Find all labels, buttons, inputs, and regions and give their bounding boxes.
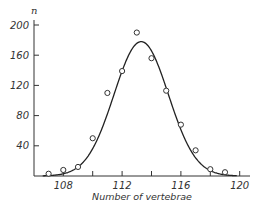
data-point: [149, 56, 154, 61]
data-point: [61, 167, 66, 172]
chart: 4080120160200 108112116120 n Number of v…: [0, 0, 261, 213]
y-tick-label: 120: [10, 80, 29, 91]
fitted-curve: [43, 42, 237, 176]
data-point: [164, 88, 169, 93]
data-point: [46, 171, 51, 176]
y-tick-label: 160: [10, 50, 29, 61]
data-point: [134, 30, 139, 35]
x-tick-label: 112: [113, 180, 132, 191]
data-point: [120, 68, 125, 73]
x-axis-label: Number of vertebrae: [92, 191, 192, 202]
y-tick-label: 200: [10, 20, 29, 31]
x-tick-label: 120: [230, 180, 249, 191]
data-point: [75, 164, 80, 169]
y-ticks: 4080120160200: [10, 20, 39, 152]
data-point: [90, 136, 95, 141]
y-tick-label: 40: [16, 140, 29, 151]
x-tick-label: 116: [171, 180, 190, 191]
data-point: [208, 167, 213, 172]
data-point: [193, 148, 198, 153]
data-points: [46, 30, 228, 176]
data-point: [105, 90, 110, 95]
x-tick-label: 108: [54, 180, 73, 191]
data-point: [178, 122, 183, 127]
y-tick-label: 80: [16, 110, 29, 121]
y-axis-label: n: [31, 5, 37, 16]
axes: [34, 20, 250, 176]
data-point: [222, 170, 227, 175]
